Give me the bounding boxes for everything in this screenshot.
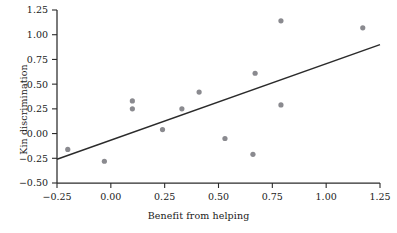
data-point xyxy=(250,152,255,157)
y-tick-label: 0.25 xyxy=(27,103,48,114)
x-axis-tick-group: −0.250.000.250.500.751.001.25 xyxy=(42,183,390,202)
x-tick-label: 1.25 xyxy=(369,191,390,202)
data-point xyxy=(130,98,135,103)
data-point xyxy=(278,102,283,107)
data-point xyxy=(360,25,365,30)
y-tick-label: 0.75 xyxy=(27,54,48,65)
data-point xyxy=(253,71,258,76)
x-tick-label: 0.75 xyxy=(262,191,283,202)
y-tick-label: −0.25 xyxy=(19,153,48,164)
y-tick-label: 1.25 xyxy=(27,4,48,15)
data-point xyxy=(130,106,135,111)
y-axis-tick-group: −0.50−0.250.000.250.500.751.001.25 xyxy=(19,4,57,188)
data-point xyxy=(197,89,202,94)
regression-line xyxy=(57,45,380,160)
x-tick-label: 1.00 xyxy=(316,191,337,202)
data-point-group xyxy=(65,18,365,164)
x-tick-label: −0.25 xyxy=(42,191,71,202)
y-tick-label: 1.00 xyxy=(27,29,48,40)
x-tick-label: 0.25 xyxy=(154,191,175,202)
x-tick-label: 0.00 xyxy=(100,191,121,202)
y-tick-label: 0.50 xyxy=(27,79,48,90)
plot-canvas: −0.50−0.250.000.250.500.751.001.25 −0.25… xyxy=(0,0,397,233)
data-point xyxy=(65,147,70,152)
data-point xyxy=(160,127,165,132)
data-point xyxy=(222,136,227,141)
scatter-plot-figure: Kin discrimination Benefit from helping … xyxy=(0,0,397,233)
data-point xyxy=(179,106,184,111)
y-tick-label: 0.00 xyxy=(27,128,48,139)
data-point xyxy=(278,18,283,23)
x-tick-label: 0.50 xyxy=(208,191,229,202)
y-tick-label: −0.50 xyxy=(19,177,48,188)
data-point xyxy=(102,159,107,164)
